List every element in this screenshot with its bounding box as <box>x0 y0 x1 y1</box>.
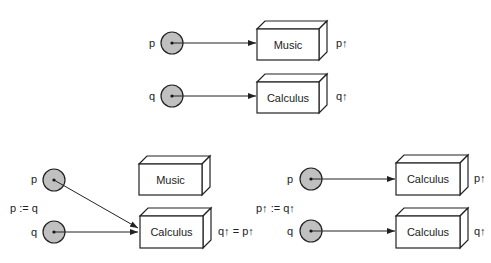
box-calculus-label: Calculus <box>257 92 319 104</box>
box-music-label: Music <box>139 174 202 186</box>
pointer-q-label: q <box>31 226 37 238</box>
deref-p-label: p↑ <box>474 172 486 184</box>
pointer-p-label: p <box>149 37 155 49</box>
pointer-q-label: q <box>287 225 293 237</box>
box-calculus-p-label: Calculus <box>396 173 460 185</box>
deref-q-label: q↑ <box>336 90 348 102</box>
box-calculus-q-label: Calculus <box>396 226 460 238</box>
pointer-q-label: q <box>149 90 155 102</box>
arrow-p-to-calculus <box>54 180 138 228</box>
deref-q-label: q↑ <box>474 225 486 237</box>
assignment-label: p := q <box>10 202 38 214</box>
box-calculus-label: Calculus <box>140 226 203 238</box>
pointer-assignment-diagram <box>0 0 491 263</box>
assignment-label: p↑ := q↑ <box>256 202 295 214</box>
pointer-p-label: p <box>31 173 37 185</box>
deref-equality-label: q↑ = p↑ <box>218 225 254 237</box>
deref-p-label: p↑ <box>336 37 348 49</box>
box-music-label: Music <box>257 39 319 51</box>
pointer-p-label: p <box>287 173 293 185</box>
